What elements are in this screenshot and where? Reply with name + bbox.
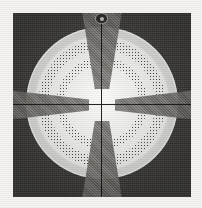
outer-wash-ring bbox=[27, 28, 177, 178]
crosshair-horizontal-line bbox=[13, 104, 191, 105]
white-circular-disc bbox=[26, 27, 178, 179]
top-index-notch bbox=[96, 14, 107, 23]
notch-highlight-dot bbox=[100, 17, 104, 21]
crosshair-vertical-line bbox=[101, 13, 102, 197]
outer-stipple-ring bbox=[38, 39, 166, 167]
inner-stipple-ring bbox=[56, 57, 148, 149]
figure-canvas: Dark square plate containing a white cir… bbox=[0, 0, 202, 208]
dark-square-plate bbox=[13, 13, 191, 197]
